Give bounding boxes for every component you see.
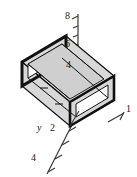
- z-tick-8-mark: [72, 16, 78, 19]
- z-minor-tick-1: [73, 26, 78, 28]
- z-tick-4-label: 4: [66, 60, 71, 70]
- z-tick-6-label: 6: [65, 39, 70, 49]
- z-minor-tick-2: [73, 35, 78, 37]
- figure-canvas: 8 6 4 y 2 4 1: [0, 0, 137, 177]
- z-tick-8-label: 8: [65, 11, 70, 21]
- y-axis-label: y: [37, 123, 41, 133]
- x-tick-1-label: 1: [126, 104, 131, 114]
- y-tick-2-label: 2: [50, 123, 55, 133]
- isometric-drawing: [0, 0, 137, 177]
- x-tick-1-mark: [120, 112, 124, 120]
- y-tick-4-label: 4: [31, 153, 36, 163]
- box-beam-geometry: [22, 36, 114, 126]
